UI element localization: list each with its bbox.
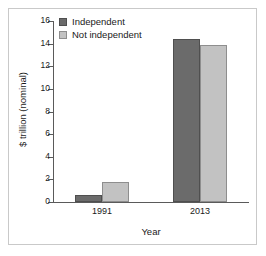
plot-area: 0246810121416 (53, 21, 249, 202)
bar (75, 195, 102, 202)
y-axis-title: $ trillion (nominal) (17, 30, 28, 190)
y-axis-tick-label: 6 (45, 128, 50, 138)
legend-swatch-icon (59, 18, 67, 26)
bar (102, 182, 129, 202)
chart-legend: IndependentNot independent (59, 15, 142, 41)
chart-figure: $ trillion (nominal) Year 0246810121416 … (0, 0, 266, 256)
y-axis-tick-label: 14 (41, 38, 50, 48)
bar (173, 39, 200, 202)
x-axis-title: Year (53, 226, 249, 237)
legend-item[interactable]: Independent (59, 15, 142, 28)
y-axis-tick-label: 4 (45, 151, 50, 161)
legend-label: Not independent (72, 29, 142, 40)
y-axis-tick-label: 10 (41, 83, 50, 93)
y-axis-tick-label: 8 (45, 106, 50, 116)
y-axis-tick-label: 16 (41, 15, 50, 25)
legend-label: Independent (72, 16, 125, 27)
x-axis-category-label: 1991 (53, 206, 151, 216)
bar (200, 45, 227, 202)
y-axis-tick-label: 0 (45, 196, 50, 206)
x-axis-category-label: 2013 (151, 206, 249, 216)
y-axis-tick-label: 2 (45, 173, 50, 183)
y-axis-tick-label: 12 (41, 60, 50, 70)
legend-item[interactable]: Not independent (59, 28, 142, 41)
x-axis-line (53, 202, 249, 203)
legend-swatch-icon (59, 31, 67, 39)
